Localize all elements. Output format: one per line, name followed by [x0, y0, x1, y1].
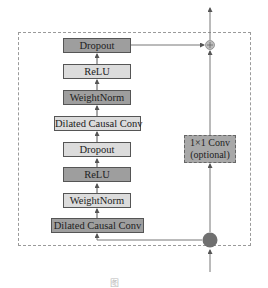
relu-block-top: ReLU [63, 64, 131, 79]
optional-label: (optional) [185, 149, 235, 161]
dropout-block-top: Dropout [63, 38, 131, 53]
relu-block-bottom: ReLU [63, 167, 131, 182]
block-label: WeightNorm [70, 92, 125, 103]
conv-label: 1×1 Conv [185, 137, 235, 149]
block-label: Dropout [80, 144, 115, 155]
dropout-block-bottom: Dropout [63, 142, 131, 157]
weightnorm-block-top: WeightNorm [63, 90, 131, 105]
block-label: Dilated Causal Conv [55, 118, 143, 129]
dilated-causal-conv-block-bottom: Dilated Causal Conv [51, 218, 144, 233]
block-label: ReLU [84, 169, 110, 180]
split-node-icon [203, 233, 218, 248]
weightnorm-block-bottom: WeightNorm [63, 193, 131, 208]
block-label: Dropout [80, 40, 115, 51]
dilated-causal-conv-block-top: Dilated Causal Conv [54, 116, 141, 131]
block-label: ReLU [84, 66, 110, 77]
block-label: Dilated Causal Conv [54, 220, 142, 231]
one-by-one-conv-optional-block: 1×1 Conv (optional) [184, 135, 236, 163]
figure-caption: 图 [110, 276, 119, 288]
block-label: WeightNorm [70, 195, 125, 206]
